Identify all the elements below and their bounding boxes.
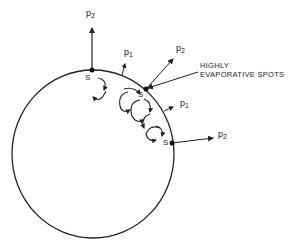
eddy-4 [143,114,150,128]
p2-top-label: p2 [86,9,95,19]
spot-top-label: S [85,74,90,82]
spot-middle-label: S [138,91,143,99]
p2-middle-label: p2 [176,44,185,54]
p1-upper-label: p1 [124,48,133,58]
eddy-1 [98,78,105,90]
eddy-3b [144,99,150,112]
annotation-line-1: HIGHLY [200,61,284,70]
annotation-line-2: EVAPORATIVE SPOTS [200,70,284,79]
eddy-2 [120,92,130,111]
circulation-eddies [93,78,162,140]
p1-right-arrow [164,107,173,111]
p2-right-label: p2 [218,130,227,140]
evaporative-spots-annotation: HIGHLY EVAPORATIVE SPOTS [200,61,284,80]
spot-top-dot [90,68,95,73]
spot-right-label: S [163,139,168,147]
droplet-diagram [0,0,296,247]
eddy-5 [146,127,160,141]
annotation-pointer [148,72,198,88]
p1-right-label: p1 [180,99,189,109]
droplet-outline [12,70,174,238]
p2-right-arrow [172,138,213,143]
p1-upper-arrow [122,64,125,75]
spot-right-dot [170,141,175,146]
diagram-canvas: p2 p1 p2 p1 p2 S S S HIGHLY EVAPORATIVE … [0,0,296,247]
eddy-1b [93,91,106,99]
spot-middle-dot [144,87,149,92]
eddy-3 [131,100,144,121]
